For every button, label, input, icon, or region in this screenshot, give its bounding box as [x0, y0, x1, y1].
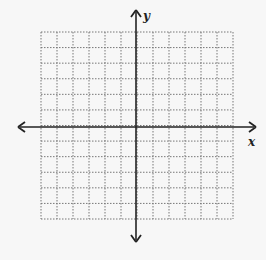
y-axis-label: y	[142, 9, 151, 23]
coordinate-plane: y x	[0, 0, 266, 260]
grid	[41, 32, 233, 219]
x-axis-label: x	[247, 135, 256, 149]
